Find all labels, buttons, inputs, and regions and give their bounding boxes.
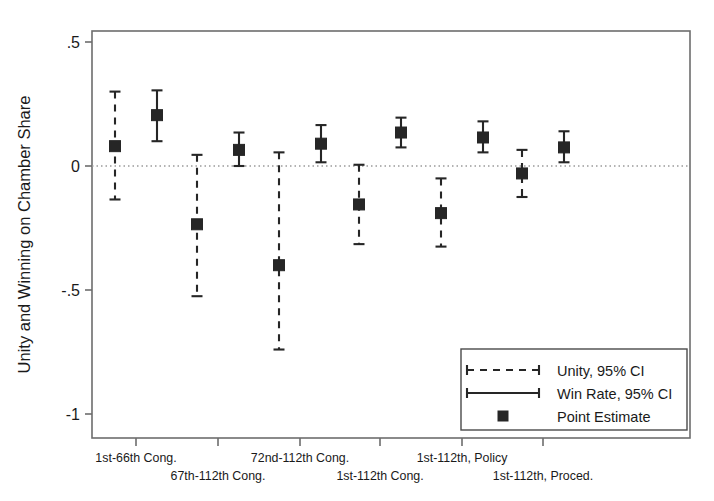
point-estimate-marker [354,199,365,210]
y-tick-label: -.5 [61,282,80,299]
y-axis-title: Unity and Winning on Chamber Share [15,96,33,374]
x-tick-label: 72nd-112th Cong. [251,451,349,465]
point-estimate-marker [559,142,570,153]
data-point-group [436,178,447,246]
x-tick-label: 1st-112th, Proced. [493,469,593,483]
data-point-group [274,152,285,349]
point-estimate-marker [110,141,121,152]
point-estimate-marker [316,138,327,149]
x-tick-label: 1st-112th, Policy [417,451,508,465]
point-estimate-marker [396,127,407,138]
series-win-rate [152,90,570,166]
data-point-group [559,131,570,162]
x-tick-label: 1st-66th Cong. [95,451,176,465]
legend-label: Unity, 95% CI [557,363,645,379]
data-point-group [152,90,163,141]
legend-marker-icon [498,411,508,421]
point-estimate-marker [478,132,489,143]
legend-label: Win Rate, 95% CI [557,386,672,402]
point-estimate-marker [517,168,528,179]
data-point-group [192,155,203,296]
data-point-group [517,150,528,197]
y-tick-label: -1 [66,406,80,423]
x-tick-label: 1st-112th Cong. [336,469,423,483]
data-point-group [110,92,121,200]
data-point-group [396,118,407,148]
y-tick-label: .5 [67,34,80,51]
point-estimate-marker [274,260,285,271]
data-point-group [354,165,365,244]
legend-label: Point Estimate [557,409,651,425]
point-estimate-marker [152,110,163,121]
data-point-group [316,125,327,162]
chart-svg: .50-.5-1Unity and Winning on Chamber Sha… [0,0,714,501]
point-estimate-marker [436,208,447,219]
data-point-group [478,121,489,152]
x-tick-label: 67th-112th Cong. [171,469,266,483]
chart-figure: .50-.5-1Unity and Winning on Chamber Sha… [0,0,714,501]
series-unity [110,92,528,350]
point-estimate-marker [192,219,203,230]
point-estimate-marker [234,144,245,155]
chart-legend: Unity, 95% CIWin Rate, 95% CIPoint Estim… [461,349,687,430]
y-tick-label: 0 [71,158,80,175]
data-point-group [234,133,245,166]
